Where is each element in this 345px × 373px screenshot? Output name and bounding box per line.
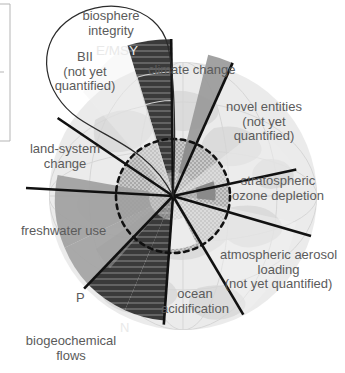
label-climate-change[interactable]: climate change bbox=[148, 63, 235, 78]
label-land-system-change[interactable]: land-system change bbox=[14, 142, 116, 171]
label-biosphere-integrity[interactable]: biosphere integrity bbox=[57, 9, 165, 38]
label-phosphorus[interactable]: P bbox=[76, 290, 85, 305]
label-biogeochemical-flows[interactable]: biogeochemical flows bbox=[13, 334, 129, 363]
cropped-frame-fragment bbox=[0, 4, 10, 141]
label-freshwater-use[interactable]: freshwater use bbox=[21, 224, 106, 239]
planetary-boundaries-figure: biosphere integrity BII (not yet quantif… bbox=[0, 0, 345, 373]
label-stratospheric-ozone-depletion[interactable]: stratospheric ozone depletion bbox=[215, 174, 341, 203]
label-atmospheric-aerosol-loading[interactable]: atmospheric aerosol loading (not yet qua… bbox=[212, 248, 345, 292]
label-ocean-acidification[interactable]: ocean acidification bbox=[152, 287, 238, 316]
label-emsy[interactable]: E/MSY bbox=[96, 43, 138, 58]
label-nitrogen[interactable]: N bbox=[120, 320, 129, 335]
label-novel-entities[interactable]: novel entities (not yet quantified) bbox=[203, 100, 325, 144]
